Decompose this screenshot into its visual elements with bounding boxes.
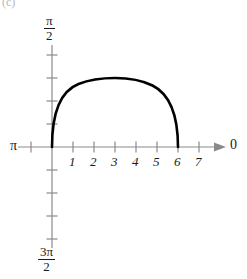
- x-tick-label-4: 4: [132, 155, 139, 168]
- x-tick-label-2: 2: [90, 155, 97, 168]
- x-axis-arrowhead: [214, 143, 226, 152]
- y-axis-bottom-numerator: 3π: [38, 245, 55, 260]
- x-tick-label-7: 7: [195, 155, 202, 168]
- plot-canvas: [0, 0, 247, 279]
- y-axis-top-label: π 2: [44, 14, 55, 42]
- math-figure-panel: (c): [0, 0, 247, 279]
- arch-curve: [52, 78, 178, 147]
- x-tick-label-3: 3: [111, 155, 118, 168]
- x-tick-label-6: 6: [174, 155, 181, 168]
- y-axis-bottom-label: 3π 2: [38, 245, 55, 273]
- y-axis-top-denominator: 2: [44, 29, 55, 43]
- x-tick-label-1: 1: [69, 155, 76, 168]
- y-axis-bottom-denominator: 2: [38, 260, 55, 274]
- x-tick-label-5: 5: [153, 155, 160, 168]
- x-axis-right-label: 0: [230, 138, 237, 152]
- x-axis-left-label: π: [10, 139, 17, 153]
- y-axis-top-numerator: π: [44, 14, 55, 29]
